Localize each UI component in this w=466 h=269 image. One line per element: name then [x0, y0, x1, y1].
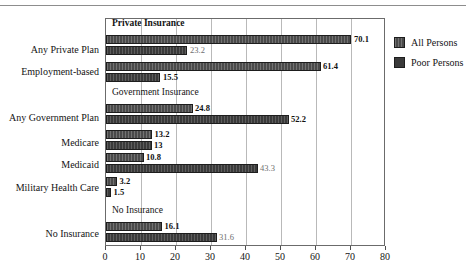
x-tick-60 [315, 246, 316, 250]
bar-employment-based-all [106, 62, 321, 71]
x-tick-label-30: 30 [205, 251, 215, 262]
bar-employment-based-poor [106, 73, 160, 82]
bar-value-employment-based-all: 61.4 [323, 62, 338, 71]
chart-figure: Any Private Plan Employment-based Any Go… [0, 0, 466, 269]
x-tick-40 [245, 246, 246, 250]
bar-any-private-plan-poor [106, 46, 187, 55]
category-label-no-insurance: No Insurance [45, 228, 99, 239]
bar-any-government-plan-all [106, 104, 193, 113]
plot-area: Private Insurance 70.1 23.2 61.4 15.5 Go… [105, 18, 385, 246]
x-tick-label-70: 70 [345, 251, 355, 262]
bar-no-insurance-all [106, 222, 162, 231]
legend-label-poor-persons: Poor Persons [411, 57, 464, 68]
category-label-medicare: Medicare [61, 137, 99, 148]
category-label-medicaid: Medicaid [61, 159, 99, 170]
bar-value-no-insurance-poor: 31.6 [219, 233, 234, 242]
legend-label-all-persons: All Persons [411, 37, 457, 48]
x-tick-label-60: 60 [310, 251, 320, 262]
bar-value-medicare-poor: 13 [154, 141, 163, 150]
x-tick-80 [385, 246, 386, 250]
gridline-40 [246, 19, 247, 245]
bar-value-military-health-care-all: 3.2 [120, 177, 131, 186]
chart-legend: All Persons Poor Persons [394, 34, 464, 74]
bar-military-health-care-poor [106, 188, 111, 197]
x-tick-label-80: 80 [380, 251, 390, 262]
legend-swatch-poor-persons-icon [394, 57, 405, 68]
bar-any-private-plan-all [106, 35, 351, 44]
gridline-50 [281, 19, 282, 245]
legend-swatch-all-persons-icon [394, 37, 405, 48]
x-tick-20 [175, 246, 176, 250]
gridline-70 [351, 19, 352, 245]
bar-value-employment-based-poor: 15.5 [163, 73, 178, 82]
bar-medicare-all [106, 130, 152, 139]
bar-any-government-plan-poor [106, 115, 289, 124]
x-tick-10 [140, 246, 141, 250]
legend-entry-poor-persons: Poor Persons [394, 54, 464, 70]
section-label-private-insurance: Private Insurance [112, 18, 185, 29]
bar-medicaid-poor [106, 164, 258, 173]
bar-no-insurance-poor [106, 233, 217, 242]
x-tick-label-0: 0 [103, 251, 108, 262]
category-label-any-government-plan: Any Government Plan [9, 112, 99, 123]
section-label-no-insurance: No Insurance [112, 205, 163, 216]
x-tick-label-50: 50 [275, 251, 285, 262]
section-label-government-insurance: Government Insurance [112, 87, 199, 98]
category-label-any-private-plan: Any Private Plan [31, 44, 99, 55]
bar-value-any-private-plan-poor: 23.2 [190, 46, 205, 55]
bar-value-medicaid-all: 10.8 [146, 153, 161, 162]
x-tick-label-10: 10 [135, 251, 145, 262]
gridline-60 [316, 19, 317, 245]
x-tick-label-40: 40 [240, 251, 250, 262]
bar-value-military-health-care-poor: 1.5 [114, 188, 125, 197]
bar-value-medicaid-poor: 43.3 [260, 164, 275, 173]
bar-value-any-private-plan-all: 70.1 [354, 35, 369, 44]
gridline-30 [211, 19, 212, 245]
bar-value-no-insurance-all: 16.1 [165, 222, 180, 231]
bar-value-any-government-plan-all: 24.8 [195, 104, 210, 113]
legend-entry-all-persons: All Persons [394, 34, 464, 50]
bar-military-health-care-all [106, 177, 117, 186]
bar-value-any-government-plan-poor: 52.2 [291, 115, 306, 124]
x-tick-30 [210, 246, 211, 250]
x-axis: 0 10 20 30 40 50 60 70 80 [105, 246, 385, 268]
x-tick-50 [280, 246, 281, 250]
x-tick-label-20: 20 [170, 251, 180, 262]
bar-medicaid-all [106, 153, 144, 162]
bar-value-medicare-all: 13.2 [155, 130, 170, 139]
category-label-military-health-care: Military Health Care [16, 182, 99, 193]
x-tick-70 [350, 246, 351, 250]
x-tick-0 [105, 246, 106, 250]
category-label-employment-based: Employment-based [21, 66, 99, 77]
category-axis-labels: Any Private Plan Employment-based Any Go… [0, 0, 102, 269]
bar-medicare-poor [106, 141, 152, 150]
